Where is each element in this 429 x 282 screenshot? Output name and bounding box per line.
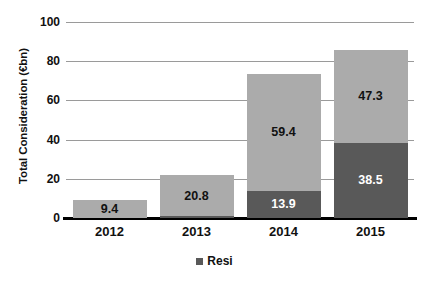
bar-group-2013[interactable]: 0.920.8 — [160, 22, 234, 218]
bar-group-2015[interactable]: 38.547.3 — [334, 22, 408, 218]
bar-value-label-2013-other: 20.8 — [184, 190, 208, 203]
bar-value-label-2015-other: 47.3 — [358, 90, 382, 103]
legend-swatch-resi — [196, 258, 203, 265]
y-axis-tick-20: 20 — [24, 173, 60, 185]
y-axis-tick-100: 100 — [24, 16, 60, 28]
bar-segment-2012-other[interactable]: 9.4 — [73, 200, 147, 218]
bar-series-container: 9.40.920.813.959.438.547.3 — [66, 22, 414, 218]
x-axis-label-2013: 2013 — [160, 224, 234, 239]
y-axis-tick-80: 80 — [24, 55, 60, 67]
y-axis-tick-60: 60 — [24, 94, 60, 106]
bar-segment-2014-resi[interactable]: 13.9 — [247, 191, 321, 218]
bar-value-label-2014-resi: 13.9 — [271, 198, 295, 211]
legend-label-resi: Resi — [207, 254, 232, 268]
x-axis-label-2015: 2015 — [334, 224, 408, 239]
bar-segment-2014-other[interactable]: 59.4 — [247, 74, 321, 190]
bar-group-2014[interactable]: 13.959.4 — [247, 22, 321, 218]
bar-segment-2015-other[interactable]: 47.3 — [334, 50, 408, 143]
chart-legend: Resi — [0, 254, 429, 268]
bar-chart: Total Consideration (€bn) 020406080100 9… — [0, 0, 429, 282]
bar-value-label-2014-other: 59.4 — [271, 126, 295, 139]
bar-segment-2015-resi[interactable]: 38.5 — [334, 143, 408, 218]
bar-segment-2013-other[interactable]: 20.8 — [160, 175, 234, 216]
bar-segment-2013-resi[interactable]: 0.9 — [160, 216, 234, 218]
y-axis-tick-0: 0 — [24, 212, 60, 224]
bar-value-label-2012-other: 9.4 — [101, 203, 118, 216]
y-axis-tick-labels: 020406080100 — [24, 0, 60, 230]
bar-group-2012[interactable]: 9.4 — [73, 22, 147, 218]
x-axis-label-2012: 2012 — [73, 224, 147, 239]
x-axis-label-2014: 2014 — [247, 224, 321, 239]
y-axis-tick-40: 40 — [24, 134, 60, 146]
x-axis-category-labels: 2012201320142015 — [66, 224, 414, 246]
bar-value-label-2015-resi: 38.5 — [358, 174, 382, 187]
